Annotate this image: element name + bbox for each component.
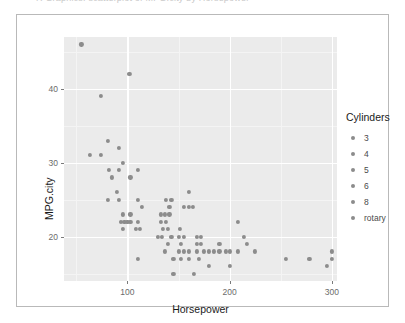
scatter-point: [136, 257, 140, 261]
scatter-point: [242, 235, 246, 239]
gridline-major-vertical: [332, 37, 333, 281]
scatter-point: [330, 249, 334, 253]
scatter-point: [192, 272, 196, 276]
scatter-point: [171, 257, 175, 261]
scatter-point: [253, 249, 257, 253]
y-tick-label: 20: [17, 232, 58, 242]
legend-key-icon: [346, 180, 359, 193]
y-tick-label: 30: [17, 158, 58, 168]
legend-key-icon: [346, 212, 359, 225]
scatter-point: [166, 227, 170, 231]
scatter-point: [128, 212, 132, 216]
x-tick-label: 300: [325, 287, 339, 297]
scatter-point: [160, 235, 164, 239]
scatter-point: [161, 227, 165, 231]
scatter-point: [199, 242, 203, 246]
y-tick-mark: [61, 237, 64, 238]
legend: Cylinders 34568rotary: [346, 111, 405, 226]
legend-key-icon: [346, 148, 359, 161]
scatter-point: [182, 205, 186, 209]
legend-items: 34568rotary: [346, 130, 405, 226]
scatter-point: [110, 175, 114, 179]
gridline-minor-horizontal: [64, 52, 337, 53]
scatter-point: [117, 146, 121, 150]
scatter-point: [171, 272, 175, 276]
scatter-point: [121, 161, 125, 165]
legend-point-swatch: [351, 184, 355, 188]
scatter-point: [140, 205, 144, 209]
scatter-point: [115, 190, 119, 194]
scatter-point: [207, 264, 211, 268]
scatter-point: [106, 198, 110, 202]
x-axis-title: Horsepower: [64, 303, 337, 315]
scatter-point: [187, 257, 191, 261]
scatter-point: [121, 212, 125, 216]
gridline-minor-vertical: [76, 37, 77, 281]
legend-point-swatch: [351, 152, 355, 156]
legend-item[interactable]: 4: [346, 146, 405, 162]
scatter-point: [176, 235, 180, 239]
scatter-point: [107, 168, 111, 172]
legend-key-icon: [346, 132, 359, 145]
scatter-point: [169, 198, 173, 202]
legend-item[interactable]: 3: [346, 130, 405, 146]
clipped-header-label: R Graphics: scatterplot of MPG.city by H…: [36, 0, 249, 3]
legend-item[interactable]: 8: [346, 194, 405, 210]
gridline-major-horizontal: [64, 163, 337, 164]
y-axis-title: MPG.city: [43, 177, 55, 220]
plot-frame: 203040 100200300 Horsepower MPG.city Cyl…: [16, 14, 389, 307]
legend-point-swatch: [351, 216, 355, 220]
scatter-point: [163, 249, 167, 253]
scatter-point: [245, 242, 249, 246]
scatter-point: [136, 220, 140, 224]
scatter-point: [284, 257, 288, 261]
scatter-point: [128, 220, 132, 224]
y-tick-mark: [61, 89, 64, 90]
gridline-major-horizontal: [64, 89, 337, 90]
x-tick-mark: [127, 281, 128, 284]
legend-item[interactable]: rotary: [346, 210, 405, 226]
scatter-point: [178, 257, 182, 261]
scatter-point: [182, 249, 186, 253]
scatter-point: [199, 235, 203, 239]
legend-item-label: 8: [364, 197, 369, 207]
scatter-point: [217, 249, 221, 253]
scatter-point: [177, 227, 181, 231]
scatter-point: [228, 264, 232, 268]
scatter-point: [127, 72, 131, 76]
scatter-point: [195, 249, 199, 253]
scatter-point: [169, 235, 173, 239]
scatter-point: [191, 205, 195, 209]
scatter-point: [182, 235, 186, 239]
scatter-point: [176, 249, 180, 253]
legend-item[interactable]: 5: [346, 162, 405, 178]
x-tick-mark: [230, 281, 231, 284]
scatter-point: [207, 249, 211, 253]
scatter-point: [167, 212, 171, 216]
gridline-minor-vertical: [281, 37, 282, 281]
legend-item[interactable]: 6: [346, 178, 405, 194]
legend-item-label: 3: [364, 133, 369, 143]
scatter-point: [212, 249, 216, 253]
scatter-point: [121, 227, 125, 231]
plot-panel: [64, 37, 337, 281]
scatter-point: [325, 264, 329, 268]
gridline-minor-horizontal: [64, 274, 337, 275]
scatter-point: [99, 94, 103, 98]
scatter-point: [187, 190, 191, 194]
x-tick-label: 200: [223, 287, 237, 297]
scatter-point: [307, 257, 311, 261]
legend-title: Cylinders: [346, 111, 405, 123]
legend-point-swatch: [351, 168, 355, 172]
y-tick-label: 40: [17, 84, 58, 94]
scatter-point: [106, 138, 110, 142]
scatter-point: [117, 168, 121, 172]
chart-screenshot: R Graphics: scatterplot of MPG.city by H…: [0, 0, 405, 323]
scatter-point: [136, 168, 140, 172]
clipped-header-text: R Graphics: scatterplot of MPG.city by H…: [0, 0, 405, 8]
scatter-point: [330, 257, 334, 261]
legend-key-icon: [346, 164, 359, 177]
scatter-point: [117, 198, 121, 202]
scatter-point: [167, 205, 171, 209]
legend-item-label: 6: [364, 181, 369, 191]
